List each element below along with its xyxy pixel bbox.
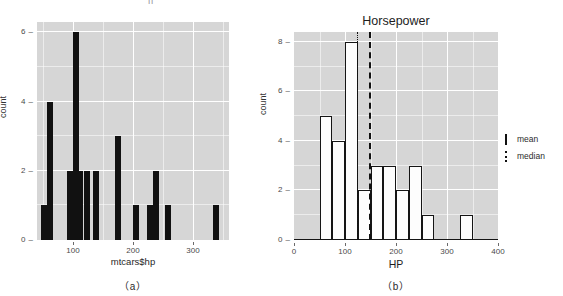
panel-b-x-tick: 200 (389, 247, 402, 256)
panel-a-bar (47, 102, 53, 240)
panel-b-bar (396, 190, 409, 240)
panel-b-x-tickmark (345, 243, 346, 246)
panel-b-baseline (294, 239, 498, 241)
panel-a-gridline-y (37, 101, 229, 102)
panel-a-y-tick: 0– (0, 235, 33, 244)
panel-a-y-tick: 6– (0, 27, 33, 36)
panel-b-bar (460, 215, 473, 240)
panel-b-caption: （b） (294, 278, 498, 293)
panel-a-gridline-minor (223, 22, 224, 240)
panel-b-median-line (357, 32, 358, 240)
panel-b-x-tick: 400 (491, 247, 504, 256)
panel-b-legend-label: median (517, 151, 545, 161)
panel-a-bar (93, 171, 99, 240)
panel-b-legend: meanmedian (505, 132, 563, 166)
panel-a-bar (153, 171, 159, 240)
figure-container: · · · ·· · ·· · ·· ·· · || ·· · ·· count… (0, 0, 563, 296)
panel-b-bar (383, 166, 396, 240)
panel-a-bar (133, 205, 139, 240)
panel-b-y-axis-label: count (258, 93, 268, 115)
panel-b-gridline-y (294, 41, 498, 42)
panel-a-plot-area (37, 22, 229, 240)
panel-a-gridline-x (193, 22, 194, 240)
panel-a-gridline-minor (37, 66, 229, 67)
panel-b-bar (320, 116, 333, 240)
panel-b-bar (332, 141, 345, 240)
panel-b-legend-item: mean (505, 132, 563, 149)
panel-b-x-axis-label: HP (294, 258, 498, 270)
panel-a-x-tickmark (133, 242, 134, 245)
panel-b-legend-item: median (505, 149, 563, 166)
panel-a-x-tickmark (193, 242, 194, 245)
panel-a-gridline-minor (103, 22, 104, 240)
panel-b-gridline-minor (294, 66, 498, 67)
panel-b-mean-line (369, 32, 371, 240)
panel-a-gridline-y (37, 170, 229, 171)
panel-b-y-tick: 0– (262, 235, 290, 244)
panel-b-bar (371, 166, 384, 240)
panel-b-bar (409, 166, 422, 240)
panel-b-title: Horsepower (294, 14, 498, 28)
panel-b-gridline-minor (422, 32, 423, 240)
panel-a-x-tickmark (73, 242, 74, 245)
panel-a-bar (213, 205, 219, 240)
panel-b-gridline-y (294, 90, 498, 91)
panel-b-legend-key-median (505, 151, 509, 162)
panel-b-x-tick: 0 (292, 247, 296, 256)
panel-b-x-tick: 100 (338, 247, 351, 256)
panel-a-bar (165, 205, 171, 240)
panel-b-x-tick: 300 (440, 247, 453, 256)
panel-a-x-tick: 300 (186, 246, 199, 255)
panel-a: count 0–2–4–6– 100200300 mtcars$hp （a） (0, 10, 262, 296)
panel-a-y-tick: 2– (0, 166, 33, 175)
clipped-header-text: · · · ·· · ·· · ·· ·· · || ·· · ·· (60, 0, 183, 4)
panel-b-y-tick: 8– (262, 37, 290, 46)
panel-b-y-tick: 2– (262, 185, 290, 194)
panel-a-bar (84, 171, 90, 240)
panel-b-y-tick: 4– (262, 136, 290, 145)
panel-b-bar (422, 215, 435, 240)
panel-a-gridline-y (37, 31, 229, 32)
panel-b-x-tickmark (294, 243, 295, 246)
panel-a-y-tick: 4– (0, 97, 33, 106)
panel-a-gridline-minor (37, 135, 229, 136)
panel-b-gridline-minor (473, 32, 474, 240)
clipped-header-strip: · · · ·· · ·· · ·· ·· · || ·· · ·· (0, 0, 563, 9)
panel-a-caption: （a） (37, 278, 229, 293)
panel-b-plot-area (294, 32, 498, 240)
panel-b-x-tickmark (447, 243, 448, 246)
panel-b-legend-key-mean (505, 134, 509, 145)
panel-b-x-tickmark (498, 243, 499, 246)
panel-a-x-axis-label: mtcars$hp (37, 256, 229, 267)
panel-a-bar (115, 136, 121, 240)
panel-a-bar (77, 171, 83, 240)
panel-a-x-tick: 200 (126, 246, 139, 255)
panel-b-x-tickmark (396, 243, 397, 246)
panel-b: Horsepower count 0–2–4–6–8– 010020030040… (262, 10, 563, 296)
panel-b-legend-label: mean (517, 134, 538, 144)
panel-b-gridline-x (447, 32, 448, 240)
panel-a-x-tick: 100 (66, 246, 79, 255)
panel-b-y-tick: 6– (262, 86, 290, 95)
